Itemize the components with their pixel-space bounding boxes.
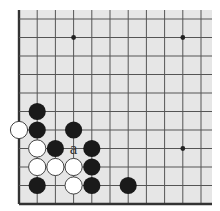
white-stone xyxy=(29,158,46,175)
black-stone xyxy=(83,158,100,175)
board-label: a xyxy=(70,139,78,158)
black-stone xyxy=(65,121,82,138)
black-stone xyxy=(29,177,46,194)
black-stone xyxy=(83,177,100,194)
star-point xyxy=(180,35,185,40)
white-stone xyxy=(29,140,46,157)
black-stone xyxy=(47,140,64,157)
star-point xyxy=(71,35,76,40)
star-point xyxy=(180,146,185,151)
white-stone xyxy=(47,158,64,175)
go-board: a xyxy=(0,0,220,211)
black-stone xyxy=(83,140,100,157)
white-stone xyxy=(10,121,27,138)
white-stone xyxy=(65,177,82,194)
black-stone xyxy=(29,121,46,138)
white-stone xyxy=(65,158,82,175)
black-stone xyxy=(120,177,137,194)
board-labels: a xyxy=(70,139,78,158)
black-stone xyxy=(29,103,46,120)
